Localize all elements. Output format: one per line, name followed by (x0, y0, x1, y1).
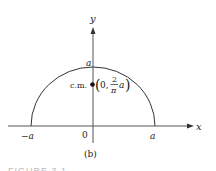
origin-label: 0 (82, 130, 88, 140)
coord-zero: 0, (100, 80, 109, 90)
fraction-suffix: a (119, 80, 124, 90)
fraction-denominator: π (110, 86, 117, 95)
center-of-mass-label: c.m. (70, 81, 87, 90)
subfigure-label: (b) (84, 149, 97, 159)
x-axis-label: x (196, 121, 202, 132)
y-axis-label: y (89, 13, 96, 24)
fraction-numerator: 2 (112, 75, 117, 84)
y-axis-arrow-icon (91, 27, 96, 34)
x-pos-tick-label: a (150, 131, 155, 141)
x-neg-tick-label: −a (21, 131, 34, 141)
semicircle-diagram: y x a −a a 0 c.m. ( 0, 2 π a ) (b) FIGUR… (0, 0, 216, 171)
caption-fragment: FIGURE 3.1 (8, 166, 67, 171)
y-top-tick-label: a (86, 58, 91, 68)
x-axis-arrow-icon (187, 124, 194, 129)
coord-close-paren: ) (125, 77, 130, 93)
